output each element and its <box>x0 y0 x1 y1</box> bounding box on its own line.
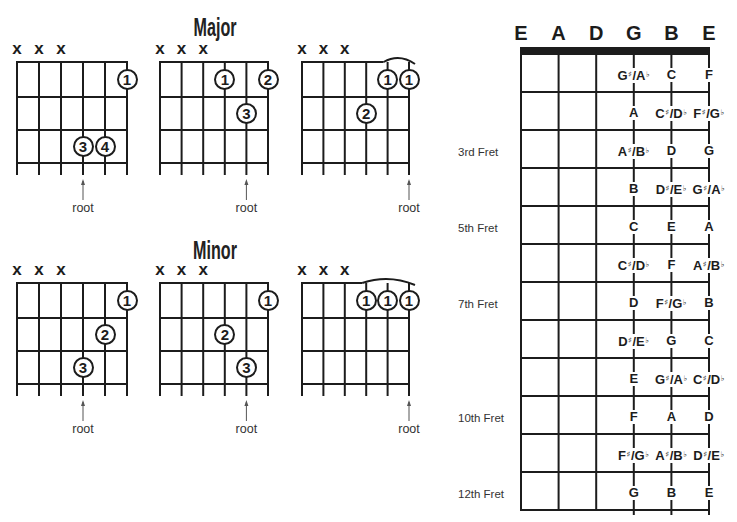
finger-number-circle: 2 <box>258 69 279 90</box>
note-label: G♯/A♭ <box>692 182 727 197</box>
note-label: D <box>703 410 714 424</box>
note-label: G <box>628 486 640 500</box>
finger-number-circle: 1 <box>117 69 138 90</box>
note-label: G♯/A♭ <box>654 372 689 387</box>
fret-number-label: 5th Fret <box>458 221 498 235</box>
root-label: root <box>389 201 429 215</box>
root-label: root <box>226 422 266 436</box>
note-label: F♯/G♭ <box>692 106 725 121</box>
root-label: root <box>63 201 103 215</box>
muted-string-x-icon: x <box>9 40 25 57</box>
note-label: F♯/G♭ <box>617 448 650 463</box>
sharp-icon: ♯ <box>666 184 670 193</box>
note-label: F♯/G♭ <box>655 296 688 311</box>
sharp-icon: ♯ <box>665 450 669 459</box>
note-label: B <box>628 182 639 196</box>
flat-icon: ♭ <box>721 184 725 193</box>
finger-number-circle: 1 <box>117 290 138 311</box>
fret-number-label: 3rd Fret <box>458 145 498 159</box>
muted-string-x-icon: x <box>31 40 47 57</box>
finger-number-circle: 2 <box>356 103 377 124</box>
note-label: D♯/E♭ <box>655 182 688 197</box>
muted-string-x-icon: x <box>174 40 190 57</box>
muted-string-x-icon: x <box>315 40 331 57</box>
note-label: D♯/E♭ <box>692 448 725 463</box>
note-label: F <box>666 258 676 272</box>
flat-icon: ♭ <box>684 374 688 383</box>
fret-number-label: 7th Fret <box>458 297 498 311</box>
muted-string-x-icon: x <box>195 261 211 278</box>
note-label: E <box>704 486 715 500</box>
flat-icon: ♭ <box>720 108 724 117</box>
muted-string-x-icon: x <box>294 261 310 278</box>
flat-icon: ♭ <box>646 260 650 269</box>
note-label: F <box>704 68 714 82</box>
finger-number-circle: 1 <box>356 290 377 311</box>
sharp-icon: ♯ <box>665 108 669 117</box>
muted-string-x-icon: x <box>337 261 353 278</box>
note-label: A <box>703 220 714 234</box>
finger-number-circle: 2 <box>95 324 116 345</box>
note-label: C <box>666 68 677 82</box>
note-label: E <box>628 372 639 386</box>
finger-number-circle: 1 <box>377 290 398 311</box>
chord-diagram-grid <box>159 283 269 421</box>
note-label: C <box>628 220 639 234</box>
finger-number-circle: 1 <box>399 290 420 311</box>
root-label: root <box>226 201 266 215</box>
finger-number-circle: 1 <box>377 69 398 90</box>
muted-string-x-icon: x <box>53 261 69 278</box>
flat-icon: ♭ <box>683 298 687 307</box>
note-label: D♯/E♭ <box>617 334 650 349</box>
fret-number-label: 12th Fret <box>458 487 504 501</box>
sharp-icon: ♯ <box>702 108 706 117</box>
note-label: A♯/B♭ <box>617 144 651 159</box>
flat-icon: ♭ <box>645 336 649 345</box>
fretboard-grid <box>520 54 710 515</box>
flat-icon: ♭ <box>721 260 725 269</box>
flat-icon: ♭ <box>645 450 649 459</box>
sharp-icon: ♯ <box>628 260 632 269</box>
string-name-label: E <box>514 23 527 43</box>
muted-string-x-icon: x <box>152 40 168 57</box>
sharp-icon: ♯ <box>703 260 707 269</box>
note-label: G <box>665 334 677 348</box>
root-label: root <box>63 422 103 436</box>
flat-icon: ♭ <box>646 70 650 79</box>
finger-number-circle: 3 <box>73 136 94 157</box>
sharp-icon: ♯ <box>666 374 670 383</box>
sharp-icon: ♯ <box>628 146 632 155</box>
sharp-icon: ♯ <box>627 450 631 459</box>
chord-diagram-grid <box>16 283 128 421</box>
note-label: A♯/B♭ <box>654 448 688 463</box>
section-title: Major <box>194 14 237 40</box>
muted-string-x-icon: x <box>315 261 331 278</box>
sharp-icon: ♯ <box>628 336 632 345</box>
section-title: Minor <box>193 237 237 263</box>
note-label: C♯/D♭ <box>617 258 651 273</box>
finger-number-circle: 1 <box>399 69 420 90</box>
flat-icon: ♭ <box>721 374 725 383</box>
flat-icon: ♭ <box>683 450 687 459</box>
string-name-label: G <box>626 23 642 43</box>
muted-string-x-icon: x <box>31 261 47 278</box>
muted-string-x-icon: x <box>337 40 353 57</box>
note-label: G <box>703 144 715 158</box>
sharp-icon: ♯ <box>628 70 632 79</box>
note-label: A♯/B♭ <box>692 258 726 273</box>
string-name-label: E <box>702 23 715 43</box>
note-label: C <box>703 334 714 348</box>
muted-string-x-icon: x <box>9 261 25 278</box>
muted-string-x-icon: x <box>152 261 168 278</box>
note-label: A <box>666 410 677 424</box>
note-label: F <box>629 410 639 424</box>
note-label: B <box>666 486 677 500</box>
muted-string-x-icon: x <box>294 40 310 57</box>
arrow-up-icon <box>81 400 85 406</box>
flat-icon: ♭ <box>646 146 650 155</box>
finger-number-circle: 4 <box>95 136 116 157</box>
note-label: D <box>628 296 639 310</box>
fretboard-nut <box>520 47 710 55</box>
note-label: G♯/A♭ <box>616 68 651 83</box>
sharp-icon: ♯ <box>703 374 707 383</box>
